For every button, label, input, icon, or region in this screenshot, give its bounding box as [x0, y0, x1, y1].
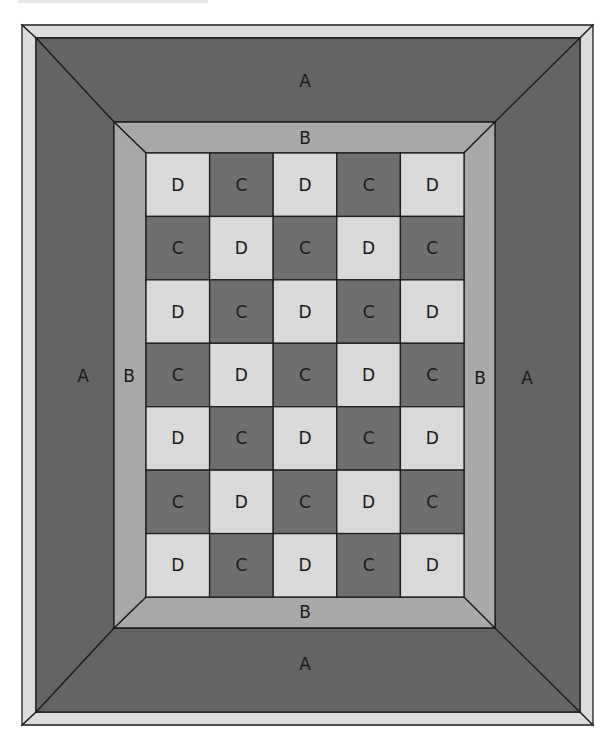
- block-grid: DCDCDCDCDCDCDCDCDCDCDCDCDCDCDCDCDCD: [146, 153, 464, 597]
- block-label: D: [171, 428, 184, 448]
- block-label: C: [235, 428, 247, 448]
- border-a-left-label: A: [77, 366, 89, 386]
- block-label: C: [299, 365, 311, 385]
- outer-frame-bottom: [22, 712, 593, 725]
- block-label: D: [426, 555, 439, 575]
- outer-frame-right: [580, 25, 593, 725]
- quilt-diagram: DCDCDCDCDCDCDCDCDCDCDCDCDCDCDCDCDCD A A …: [0, 0, 612, 739]
- block-label: D: [362, 365, 375, 385]
- outer-frame-left: [22, 25, 36, 725]
- border-b-left-label: B: [123, 366, 135, 386]
- block-label: C: [235, 555, 247, 575]
- border-a-right: [495, 38, 580, 712]
- block-label: C: [426, 365, 438, 385]
- border-b-bottom-label: B: [299, 602, 311, 622]
- block-label: C: [363, 428, 375, 448]
- border-b-top-label: B: [299, 128, 311, 148]
- block-label: D: [426, 302, 439, 322]
- block-label: D: [426, 428, 439, 448]
- block-label: C: [235, 302, 247, 322]
- border-a-left: [36, 38, 114, 712]
- outer-frame-top: [22, 25, 593, 38]
- block-label: D: [298, 428, 311, 448]
- block-label: C: [426, 492, 438, 512]
- block-label: C: [363, 302, 375, 322]
- block-label: D: [298, 302, 311, 322]
- block-label: C: [172, 365, 184, 385]
- block-label: C: [363, 555, 375, 575]
- border-a-right-label: A: [521, 368, 533, 388]
- block-label: D: [171, 175, 184, 195]
- block-label: D: [235, 238, 248, 258]
- block-label: D: [362, 492, 375, 512]
- block-label: D: [171, 555, 184, 575]
- block-label: C: [363, 175, 375, 195]
- block-label: C: [299, 492, 311, 512]
- block-label: C: [172, 238, 184, 258]
- block-label: D: [298, 555, 311, 575]
- block-label: D: [426, 175, 439, 195]
- block-label: D: [235, 365, 248, 385]
- block-label: C: [235, 175, 247, 195]
- block-label: D: [298, 175, 311, 195]
- border-a-bottom-label: A: [299, 654, 311, 674]
- block-label: C: [299, 238, 311, 258]
- block-label: D: [171, 302, 184, 322]
- block-label: C: [172, 492, 184, 512]
- block-label: D: [362, 238, 375, 258]
- block-label: D: [235, 492, 248, 512]
- border-b-right-label: B: [474, 368, 486, 388]
- block-label: C: [426, 238, 438, 258]
- border-a-top-label: A: [299, 71, 311, 91]
